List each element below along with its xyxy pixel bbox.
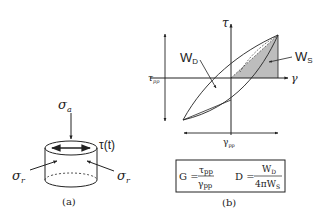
diagram-canvas: σa τ(t) σr σr (a) τ γ xyxy=(0,0,327,222)
svg-text:WD: WD xyxy=(262,164,276,175)
shear-modulus-formula: G = τpp γpp xyxy=(179,165,214,190)
gamma-pp-label: γpp xyxy=(223,137,235,149)
svg-text:D =: D = xyxy=(235,171,255,182)
ws-label: WS xyxy=(295,49,313,65)
gamma-axis-label: γ xyxy=(291,72,298,85)
sigma-a-label: σa xyxy=(58,97,72,114)
tau-pp-label: τpp xyxy=(148,73,160,85)
caption-a: (a) xyxy=(62,196,76,207)
radial-stress-arrow-left xyxy=(30,161,57,170)
wd-label: WD xyxy=(180,50,198,66)
wd-pointer-arrow xyxy=(200,60,216,88)
tau-axis-label: τ xyxy=(222,16,229,30)
svg-text:γpp: γpp xyxy=(198,179,213,190)
sigma-r-left-label: σr xyxy=(12,168,26,185)
radial-stress-arrow-right xyxy=(87,161,114,171)
panel-b: τ γ τpp γpp WD WS G = τpp γpp D = WD xyxy=(148,16,313,208)
tau-t-label: τ(t) xyxy=(99,138,115,152)
svg-text:τpp: τpp xyxy=(199,165,213,176)
damping-ratio-formula: D = WD 4πWS xyxy=(235,164,282,190)
sigma-r-right-label: σr xyxy=(117,168,131,185)
panel-a: σa τ(t) σr σr (a) xyxy=(12,97,131,207)
svg-text:4πWS: 4πWS xyxy=(255,179,280,190)
caption-b: (b) xyxy=(222,197,236,208)
svg-text:G =: G = xyxy=(179,171,199,182)
